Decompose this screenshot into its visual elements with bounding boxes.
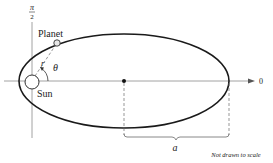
pi-label: π	[30, 3, 35, 12]
sun-label: Sun	[37, 88, 53, 99]
semi-major-axis-brace	[124, 134, 229, 140]
orbit-diagram: π 2 0 Planet Sun r θ a Not drawn to scal…	[0, 0, 273, 163]
angle-label: θ	[53, 62, 58, 73]
axis-arrow-icon	[248, 79, 255, 84]
sun-icon	[25, 75, 39, 89]
semi-major-axis-label: a	[173, 142, 178, 153]
ellipse-center-dot	[122, 79, 126, 83]
radius-label: r	[41, 58, 45, 68]
scale-note: Not drawn to scale	[210, 151, 260, 158]
zero-angle-label: 0	[259, 77, 263, 86]
planet-label: Planet	[38, 28, 63, 39]
two-label: 2	[30, 13, 34, 21]
planet-icon	[54, 40, 60, 46]
